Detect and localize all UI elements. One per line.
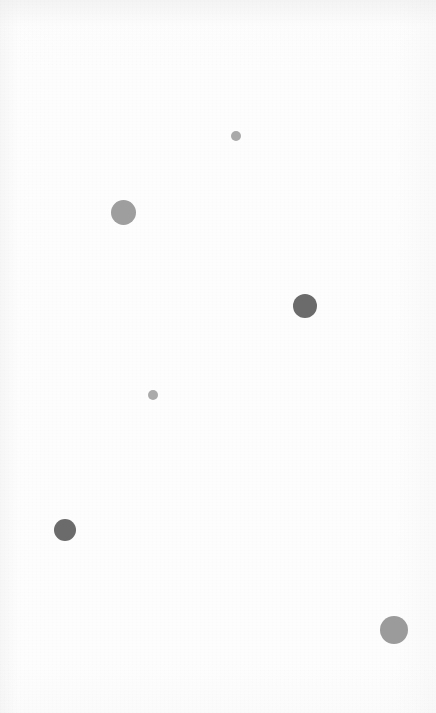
scatter-point: [54, 519, 76, 541]
scatter-point: [380, 616, 408, 644]
scatter-plot-canvas: [0, 0, 436, 713]
scatter-point: [231, 131, 241, 141]
scatter-point: [148, 390, 158, 400]
scatter-point: [293, 294, 317, 318]
paper-grain-overlay: [0, 0, 436, 713]
paper-texture-overlay: [0, 0, 436, 713]
scatter-point: [111, 200, 136, 225]
